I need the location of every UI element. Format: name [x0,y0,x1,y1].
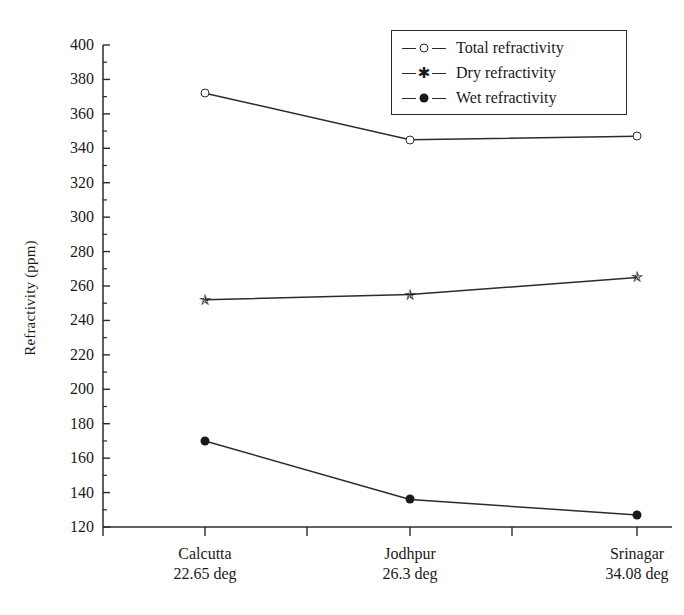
data-point-wet-refractivity-srinagar [633,510,642,519]
legend-label-dry: Dry refractivity [456,64,556,82]
open-circle-marker-icon [400,39,448,57]
data-point-total-refractivity-jodhpur [406,135,415,144]
x-tick-city-name: Jodhpur [382,544,437,564]
x-tick-latitude: 34.08 deg [605,564,668,584]
data-point-total-refractivity-calcutta [201,89,210,98]
data-point-dry-refractivity-jodhpur: ✯ [404,290,417,299]
x-tick-label-jodhpur: Jodhpur26.3 deg [382,544,437,584]
chart-figure: Refractivity (ppm) 400380360340320300280… [0,0,684,615]
filled-circle-marker-icon [400,89,448,107]
data-point-total-refractivity-srinagar [633,132,642,141]
x-tick-latitude: 22.65 deg [173,564,236,584]
legend-item-dry: ✱ Dry refractivity [400,61,556,85]
star-marker-icon: ✱ [400,64,448,82]
chart-legend: Total refractivity ✱ Dry refractivity We… [391,30,627,115]
x-tick-label-calcutta: Calcutta22.65 deg [173,544,236,584]
legend-item-wet: Wet refractivity [400,86,556,110]
x-tick-city-name: Calcutta [173,544,236,564]
data-point-dry-refractivity-calcutta: ✯ [199,295,212,304]
x-tick-latitude: 26.3 deg [382,564,437,584]
legend-item-total: Total refractivity [400,36,564,60]
x-tick-city-name: Srinagar [605,544,668,564]
data-point-dry-refractivity-srinagar: ✯ [631,273,644,282]
legend-label-total: Total refractivity [456,39,564,57]
legend-label-wet: Wet refractivity [456,89,556,107]
x-tick-label-srinagar: Srinagar34.08 deg [605,544,668,584]
data-point-wet-refractivity-calcutta [201,436,210,445]
data-point-wet-refractivity-jodhpur [406,495,415,504]
